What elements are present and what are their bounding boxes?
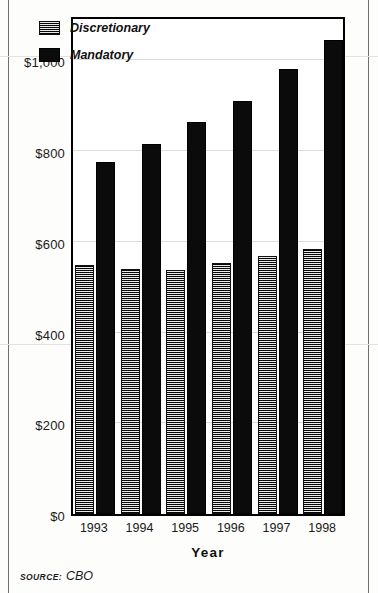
source-label: SOURCE: <box>20 572 62 582</box>
bar-mandatory-1994 <box>142 144 161 514</box>
gridline <box>73 150 343 151</box>
legend-label-discretionary: Discretionary <box>70 21 150 35</box>
page-border-right <box>368 0 369 593</box>
bar-mandatory-1996 <box>233 101 252 514</box>
y-axis-tick-800: $800 <box>5 146 65 161</box>
x-axis-tick-1996: 1996 <box>210 521 252 535</box>
x-axis-tick-1997: 1997 <box>256 521 298 535</box>
bar-discretionary-1996 <box>212 263 231 514</box>
y-axis-tick-400: $400 <box>5 327 65 342</box>
bar-discretionary-1998 <box>303 249 322 514</box>
x-axis-tick-1998: 1998 <box>301 521 343 535</box>
source-value: CBO <box>66 569 93 583</box>
bar-discretionary-1997 <box>258 256 277 514</box>
legend-item-discretionary: Discretionary <box>39 17 150 39</box>
solid-black-swatch-icon <box>39 48 60 62</box>
x-axis-title: Year <box>71 545 345 560</box>
bar-discretionary-1995 <box>166 270 185 514</box>
bar-mandatory-1998 <box>324 40 343 514</box>
y-axis-tick-200: $200 <box>5 418 65 433</box>
page-border-left <box>8 0 9 593</box>
y-axis-tick-0: $0 <box>5 509 65 524</box>
bar-mandatory-1993 <box>96 162 115 514</box>
x-axis-tick-1993: 1993 <box>73 521 115 535</box>
plot-area <box>73 19 343 514</box>
bar-discretionary-1994 <box>121 269 140 514</box>
y-axis-tick-600: $600 <box>5 236 65 251</box>
chart-plot-frame <box>71 17 345 516</box>
bar-mandatory-1997 <box>279 69 298 514</box>
bar-discretionary-1993 <box>75 265 94 515</box>
x-axis-tick-1994: 1994 <box>119 521 161 535</box>
x-axis-tick-1995: 1995 <box>164 521 206 535</box>
hatched-gray-swatch-icon <box>39 21 60 35</box>
source-note: SOURCE: CBO <box>20 569 93 583</box>
bar-mandatory-1995 <box>187 122 206 514</box>
legend-item-mandatory: Mandatory <box>39 44 150 66</box>
chart-legend: Discretionary Mandatory <box>39 17 150 71</box>
legend-label-mandatory: Mandatory <box>70 48 133 62</box>
